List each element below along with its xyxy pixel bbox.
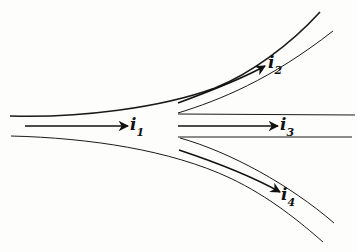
branch-2-inner-wall [178,31,333,113]
current-junction-diagram: i1 i2 i3 i4 [0,0,357,252]
label-i1: i1 [130,116,144,136]
junction-drawing [0,0,357,252]
label-i4: i4 [281,186,295,206]
label-i2-subscript: 2 [274,64,282,77]
label-i3-subscript: 3 [286,126,294,139]
label-i3: i3 [280,116,294,136]
branch-3-upper-wall [178,114,355,115]
inlet-lower-wall [11,136,323,242]
label-i1-subscript: 1 [136,126,144,139]
label-i4-subscript: 4 [287,196,295,209]
label-i2: i2 [268,54,282,74]
